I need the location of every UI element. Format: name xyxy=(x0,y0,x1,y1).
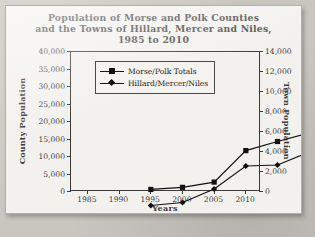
plot-area: 05,00010,00015,00020,00025,00030,00035,0… xyxy=(70,51,260,191)
legend-item-morse-polk-totals: Morse/Polk Totals xyxy=(100,65,208,77)
square-marker-icon xyxy=(100,66,124,76)
y-axis-left-tick xyxy=(67,86,71,87)
y-axis-left-tick-label: 0 xyxy=(60,187,65,196)
y-axis-right-tick xyxy=(259,51,263,52)
series-1 xyxy=(148,130,302,192)
y-axis-right-tick xyxy=(259,91,263,92)
y-axis-left-tick xyxy=(67,69,71,70)
x-axis-title: Years xyxy=(70,203,260,213)
y-axis-left-tick xyxy=(67,191,71,192)
y-axis-left-tick-label: 30,000 xyxy=(38,82,65,91)
series-layer xyxy=(135,96,302,214)
y-axis-left-tick xyxy=(67,121,71,122)
diamond-marker-icon xyxy=(100,78,124,88)
y-axis-left-tick xyxy=(67,174,71,175)
series-2 xyxy=(148,149,302,209)
data-point-square xyxy=(212,180,217,185)
y-axis-left-tick-label: 35,000 xyxy=(38,64,65,73)
chart-card: Population of Morse and Polk Counties an… xyxy=(5,5,302,214)
y-axis-left-tick-label: 15,000 xyxy=(38,134,65,143)
chart-title-line-2: and the Towns of Hillard, Mercer and Nil… xyxy=(6,23,301,34)
y-axis-right-tick-label: 14,000 xyxy=(265,47,292,56)
y-axis-left-tick-label: 10,000 xyxy=(38,152,65,161)
y-axis-left-tick xyxy=(67,156,71,157)
y-axis-right-tick-label: 10,000 xyxy=(265,87,292,96)
data-point-square xyxy=(180,185,185,190)
y-axis-left-tick xyxy=(67,139,71,140)
y-axis-left-title: County Population xyxy=(16,51,28,191)
legend-label-series-1: Morse/Polk Totals xyxy=(128,67,197,76)
y-axis-left-tick xyxy=(67,51,71,52)
y-axis-left-tick-label: 40,000 xyxy=(38,47,65,56)
chart-legend: Morse/Polk Totals Hillard/Mercer/Niles xyxy=(95,61,215,94)
x-axis-tick xyxy=(119,190,120,194)
data-point-diamond xyxy=(274,162,280,168)
data-point-square xyxy=(275,139,280,144)
page-background: Population of Morse and Polk Counties an… xyxy=(0,0,315,237)
data-point-square xyxy=(243,148,248,153)
chart-title: Population of Morse and Polk Counties an… xyxy=(6,12,301,46)
legend-item-hillard-mercer-niles: Hillard/Mercer/Niles xyxy=(100,77,208,89)
y-axis-right-tick xyxy=(259,71,263,72)
chart-title-line-1: Population of Morse and Polk Counties xyxy=(6,12,301,23)
series-line xyxy=(151,152,302,206)
legend-label-series-2: Hillard/Mercer/Niles xyxy=(128,79,208,88)
chart-title-line-3: 1985 to 2010 xyxy=(6,34,301,45)
y-axis-left-tick xyxy=(67,104,71,105)
y-axis-left-tick-label: 25,000 xyxy=(38,99,65,108)
x-axis-tick xyxy=(87,190,88,194)
y-axis-right-tick-label: 12,000 xyxy=(265,67,292,76)
y-axis-left-tick-label: 5,000 xyxy=(43,169,65,178)
data-point-square xyxy=(148,187,153,192)
y-axis-left-tick-label: 20,000 xyxy=(38,117,65,126)
